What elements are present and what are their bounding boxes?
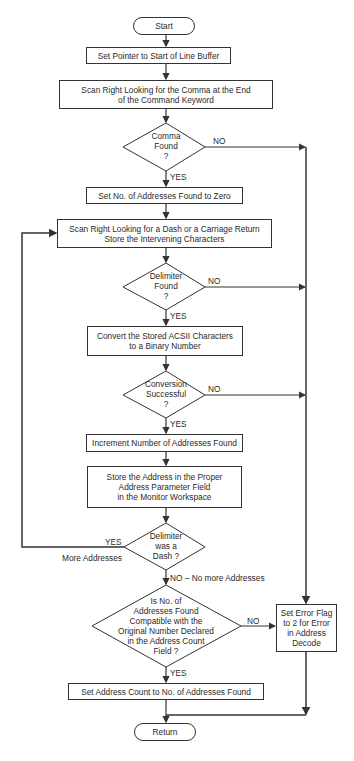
comma-no-label: NO [213,136,225,146]
convert-box: Convert the Stored ACSII Characters to a… [87,326,243,356]
set-error-box: Set Error Flag to 2 for Error in Address… [276,604,337,652]
more-addresses-label: More Addresses [62,553,122,563]
compatible-decision: Is No. of Addresses Found Compatible wit… [100,596,232,656]
return-terminal: Return [134,723,196,741]
set-pointer-box: Set Pointer to Start of Line Buffer [86,47,231,64]
dash-yes-label: YES [105,537,122,547]
set-count-box: Set Address Count to No. of Addresses Fo… [68,683,264,700]
start-terminal: Start [133,17,195,35]
comma-yes-label: YES [170,172,187,182]
was-dash-decision: Delimiter was a Dash ? [133,531,199,561]
scan-dash-box: Scan Right Looking for a Dash or a Carri… [57,219,272,248]
delimiter-yes-label: YES [170,311,187,321]
no-more-addresses-label: NO – No more Addresses [170,573,265,583]
delimiter-no-label: NO [208,276,220,286]
set-zero-box: Set No. of Addresses Found to Zero [86,187,243,204]
increment-box: Increment Number of Addresses Found [86,434,243,452]
compatible-no-label: NO [247,616,259,626]
conversion-successful-decision: Conversion Successful ? [133,379,199,409]
conversion-yes-label: YES [170,419,187,429]
delimiter-found-decision: Delimiter Found ? [133,271,199,301]
store-address-box: Store the Address in the Proper Address … [87,466,242,508]
comma-found-decision: Comma Found ? [133,131,199,161]
compatible-yes-label: YES [170,668,187,678]
scan-comma-box: Scan Right Looking for the Comma at the … [59,80,273,109]
conversion-no-label: NO [208,384,220,394]
